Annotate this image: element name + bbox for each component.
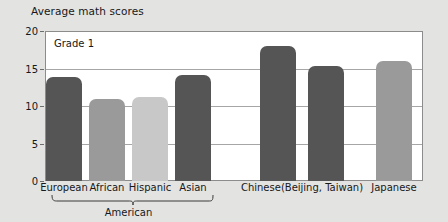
group-label-american: American — [105, 207, 153, 218]
y-tick-mark — [40, 69, 44, 70]
bar-african-1 — [89, 99, 125, 182]
y-tick-label: 20 — [25, 26, 38, 37]
bar-chinese-5 — [308, 66, 344, 181]
y-tick-label: 10 — [25, 101, 38, 112]
y-tick-label: 15 — [25, 63, 38, 74]
x-label-african: African — [90, 182, 125, 193]
x-label-hispanic: Hispanic — [129, 182, 172, 193]
group-label-japanese: Japanese — [371, 182, 416, 193]
bar-asian-3 — [175, 75, 211, 181]
group-label-chinese-line2: (Beijing, Taiwan) — [281, 182, 363, 193]
x-axis-labels: EuropeanAfricanHispanicAsianAmericanChin… — [0, 182, 448, 222]
chart-title: Average math scores — [31, 5, 144, 17]
bar-chinese-4 — [260, 46, 296, 181]
x-label-asian: Asian — [179, 182, 206, 193]
bar-series — [45, 31, 423, 181]
y-tick-label: 5 — [32, 138, 38, 149]
chart-figure: Average math scores 05101520 Grade 1 Eur… — [0, 0, 448, 222]
group-label-chinese-line1: Chinese — [241, 182, 281, 193]
y-axis: 05101520 — [0, 31, 45, 181]
y-tick-mark — [40, 31, 44, 32]
bar-hispanic-2 — [132, 97, 168, 181]
y-tick-mark — [40, 106, 44, 107]
bar-european-0 — [46, 77, 82, 181]
x-label-european: European — [40, 182, 88, 193]
group-label-chinese: Chinese(Beijing, Taiwan) — [241, 182, 363, 193]
bar-japanese-6 — [376, 61, 412, 181]
y-tick-mark — [40, 144, 44, 145]
